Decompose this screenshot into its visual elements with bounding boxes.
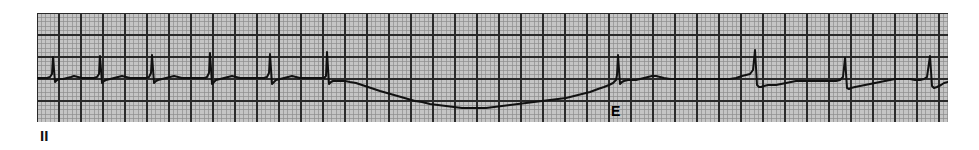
ecg-rhythm-strip: II E <box>0 0 979 150</box>
ecg-paper <box>37 13 948 122</box>
annotation-escape-beat: E <box>611 104 620 118</box>
grid-fine-lines <box>37 13 948 122</box>
ecg-trace-canvas <box>37 13 948 122</box>
lead-label: II <box>40 128 48 143</box>
